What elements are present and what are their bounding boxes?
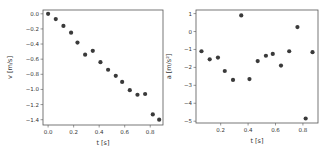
chart-1: 0.00.20.40.60.80.0−0.2−0.4−0.6−0.8−1.0−1…	[6, 10, 163, 147]
y-tick-label: −0.4	[26, 41, 40, 47]
x-tick-label: 0.8	[299, 127, 308, 133]
data-point	[199, 49, 203, 53]
data-point	[247, 77, 251, 81]
data-point	[106, 68, 110, 72]
y-tick-label: −2	[184, 64, 192, 70]
data-point	[295, 25, 299, 29]
chart-2: 0.20.40.60.810−1−2−3−4−5t [s]a [m/s²]	[165, 10, 318, 145]
x-tick-label: 0.4	[244, 127, 253, 133]
data-point	[239, 13, 243, 17]
data-point	[135, 93, 139, 97]
y-tick-label: −0.2	[26, 26, 39, 32]
data-point	[310, 50, 314, 54]
plot-frame	[43, 10, 163, 125]
data-point	[143, 92, 147, 96]
data-point	[69, 31, 73, 35]
data-point	[256, 59, 260, 63]
x-tick-label: 0.6	[120, 129, 129, 135]
x-tick-label: 0.2	[216, 127, 225, 133]
x-tick-label: 0.8	[146, 129, 155, 135]
data-point	[114, 74, 118, 78]
data-point	[54, 17, 58, 21]
data-point	[264, 54, 268, 58]
x-tick-label: 0.2	[69, 129, 78, 135]
data-point	[120, 80, 124, 84]
y-tick-label: −3	[184, 82, 193, 88]
data-point	[304, 116, 308, 120]
x-tick-label: 0.0	[44, 129, 53, 135]
data-point	[128, 88, 132, 92]
data-point	[287, 49, 291, 53]
data-point	[46, 12, 50, 16]
y-tick-label: 0.0	[30, 11, 39, 17]
y-tick-label: −0.8	[26, 71, 40, 77]
data-point	[91, 49, 95, 53]
x-axis-label: t [s]	[96, 139, 109, 147]
y-tick-label: 1	[189, 11, 193, 17]
plot-frame	[196, 10, 318, 123]
y-axis-label: v [m/s]	[6, 56, 14, 79]
data-point	[61, 24, 65, 28]
y-axis-label: a [m/s²]	[165, 54, 173, 80]
data-point	[279, 64, 283, 68]
figure: 0.00.20.40.60.80.0−0.2−0.4−0.6−0.8−1.0−1…	[0, 0, 329, 150]
data-point	[157, 118, 161, 122]
y-tick-label: −1.0	[26, 86, 40, 92]
data-point	[75, 40, 79, 44]
data-point	[83, 53, 87, 57]
x-axis-label: t [s]	[250, 137, 263, 145]
y-tick-label: −1	[184, 46, 192, 52]
data-point	[208, 57, 212, 61]
y-tick-label: −1.4	[26, 117, 40, 123]
data-point	[216, 55, 220, 59]
x-tick-label: 0.6	[271, 127, 280, 133]
data-point	[223, 69, 227, 73]
data-point	[98, 60, 102, 64]
y-tick-label: −5	[184, 118, 193, 124]
y-tick-label: 0	[189, 29, 193, 35]
data-point	[231, 78, 235, 82]
y-tick-label: −0.6	[26, 56, 40, 62]
y-tick-label: −1.2	[26, 102, 39, 108]
data-point	[151, 112, 155, 116]
data-point	[271, 52, 275, 56]
y-tick-label: −4	[184, 100, 193, 106]
x-tick-label: 0.4	[95, 129, 104, 135]
